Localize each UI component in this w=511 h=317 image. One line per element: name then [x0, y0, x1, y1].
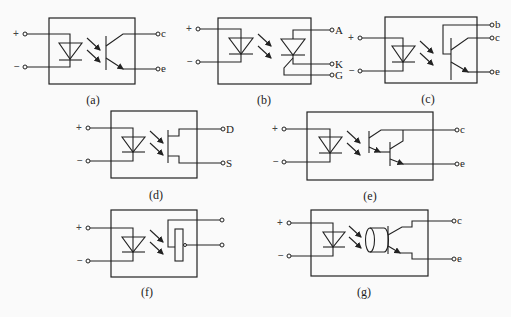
- svg-text:−: −: [77, 255, 83, 266]
- light-arrows-icon: [150, 230, 163, 254]
- input-minus-terminal: [23, 65, 27, 69]
- caption-b: (b): [257, 93, 271, 107]
- input-plus-terminal: [196, 27, 200, 31]
- svg-text:+: +: [76, 122, 82, 133]
- svg-text:+: +: [348, 32, 354, 43]
- svg-text:e: e: [161, 62, 166, 74]
- svg-text:D: D: [226, 123, 234, 135]
- light-arrows-icon: [420, 41, 433, 65]
- package-outline: [218, 18, 311, 84]
- minus-label: −: [14, 61, 20, 72]
- caption-f: (f): [141, 285, 153, 299]
- light-arrows-icon: [349, 226, 361, 248]
- panel-f: + − (f): [76, 210, 224, 299]
- svg-text:A: A: [335, 24, 343, 36]
- svg-text:+: +: [272, 123, 278, 134]
- package-outline: [307, 112, 433, 180]
- svg-text:c: c: [457, 214, 462, 226]
- phototransistor-with-base-icon: [443, 25, 490, 80]
- panel-d: + − D S (d): [76, 111, 234, 202]
- svg-text:e: e: [495, 65, 500, 77]
- caption-d: (d): [149, 188, 163, 202]
- svg-text:c: c: [495, 31, 500, 43]
- svg-text:b: b: [495, 18, 501, 30]
- svg-text:−: −: [273, 156, 279, 167]
- svg-text:c: c: [460, 123, 465, 135]
- package-outline: [111, 111, 197, 178]
- light-arrows-icon: [150, 131, 163, 155]
- phototransistor-icon: [388, 221, 452, 259]
- plus-label: +: [13, 28, 19, 39]
- led-icon: [323, 232, 345, 247]
- phototransistor-icon: [106, 34, 156, 70]
- caption-e: (e): [363, 189, 376, 203]
- svg-text:−: −: [77, 155, 83, 166]
- svg-text:S: S: [226, 157, 232, 169]
- panel-b: + − A K G (b): [186, 18, 343, 107]
- input-minus-terminal: [196, 60, 200, 64]
- light-arrows-icon: [258, 34, 271, 58]
- optocoupler-figure: + − c e (a) + −: [0, 0, 511, 317]
- light-arrows-icon: [87, 38, 100, 62]
- photothyristor-icon: [281, 30, 330, 75]
- panel-c: + − b c e (c): [348, 17, 501, 106]
- svg-text:+: +: [186, 23, 192, 34]
- svg-text:−: −: [349, 65, 355, 76]
- svg-text:e: e: [457, 252, 462, 264]
- svg-text:+: +: [277, 217, 283, 228]
- svg-text:e: e: [460, 157, 465, 169]
- svg-text:−: −: [278, 250, 284, 261]
- photo-darlington-icon: [369, 130, 455, 166]
- output-c-terminal: [156, 32, 160, 36]
- photoresistor-icon: [168, 220, 220, 261]
- svg-text:+: +: [76, 222, 82, 233]
- svg-text:G: G: [335, 69, 343, 81]
- light-pipe-icon: [366, 228, 389, 252]
- input-plus-terminal: [23, 32, 27, 36]
- svg-text:c: c: [161, 27, 166, 39]
- photo-fet-icon: [168, 129, 221, 163]
- panel-a: + − c e (a): [13, 18, 166, 107]
- svg-text:−: −: [187, 56, 193, 67]
- caption-a: (a): [86, 93, 99, 107]
- package-outline: [385, 17, 477, 83]
- panel-e: + − c e (e): [272, 112, 465, 203]
- caption-g: (g): [357, 285, 371, 299]
- package-outline: [49, 18, 135, 84]
- panel-g: + − c e (g): [277, 210, 462, 299]
- caption-c: (c): [421, 92, 434, 106]
- light-arrows-icon: [347, 131, 360, 155]
- package-outline: [311, 210, 428, 276]
- output-e-terminal: [156, 67, 160, 71]
